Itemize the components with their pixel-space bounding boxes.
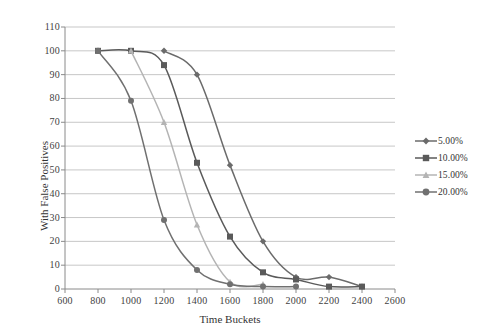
x-tick-label: 2600 (373, 296, 417, 306)
marker-circle (128, 98, 134, 104)
y-tick-label: 10 (26, 260, 60, 270)
y-tick-label: 0 (26, 284, 60, 294)
legend-label: 20.00% (438, 187, 468, 197)
marker-square (227, 234, 233, 240)
marker-circle (293, 284, 299, 290)
y-axis-title-wrap: With False Positives (18, 60, 32, 240)
marker-circle (95, 48, 101, 54)
x-axis-title: Time Buckets (65, 313, 395, 325)
marker-triangle (194, 221, 200, 227)
marker-square (293, 276, 299, 282)
chart-legend: 5.00%10.00%15.00%20.00% (414, 132, 488, 200)
data-series-layer (65, 27, 395, 289)
legend-item[interactable]: 10.00% (414, 149, 488, 166)
series-1000 (95, 48, 365, 290)
marker-diamond (161, 48, 167, 54)
plot-area (65, 27, 395, 289)
chart-container: 0102030405060708090100110 60080010001200… (0, 0, 491, 335)
legend-marker-triangle-icon (414, 168, 438, 182)
series-500 (161, 48, 365, 290)
legend-marker-diamond-icon (414, 134, 438, 148)
legend-marker-square-icon (414, 151, 438, 165)
legend-item[interactable]: 20.00% (414, 183, 488, 200)
marker-circle (260, 284, 266, 290)
x-axis-tick-labels: 6008001000120014001600180020002200240026… (65, 296, 395, 310)
series-line (98, 50, 362, 287)
marker-square (260, 269, 266, 275)
marker-square (161, 62, 167, 68)
marker-square (326, 284, 332, 290)
series-2000 (95, 48, 299, 290)
marker-circle (194, 267, 200, 273)
legend-label: 5.00% (438, 136, 463, 146)
marker-diamond (423, 137, 430, 144)
legend-label: 10.00% (438, 153, 468, 163)
legend-label: 15.00% (438, 170, 468, 180)
marker-circle (161, 217, 167, 223)
legend-item[interactable]: 5.00% (414, 132, 488, 149)
series-line (164, 51, 362, 287)
marker-square (194, 160, 200, 166)
marker-diamond (227, 162, 233, 168)
legend-item[interactable]: 15.00% (414, 166, 488, 183)
marker-triangle (161, 119, 167, 125)
marker-diamond (260, 238, 266, 244)
series-line (131, 51, 263, 287)
marker-circle (227, 281, 233, 287)
legend-marker-circle-icon (414, 185, 438, 199)
y-axis-title: With False Positives (38, 116, 50, 256)
marker-circle (423, 188, 430, 195)
marker-square (359, 284, 365, 290)
y-tick-label: 110 (26, 22, 60, 32)
marker-diamond (326, 274, 332, 280)
y-tick-label: 100 (26, 46, 60, 56)
series-line (98, 51, 296, 287)
marker-square (423, 154, 429, 160)
